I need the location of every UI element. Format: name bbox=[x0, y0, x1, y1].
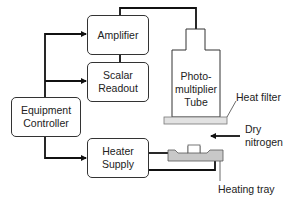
pmt-label-3: Tube bbox=[172, 96, 220, 109]
equipment-controller-block: Equipment Controller bbox=[11, 97, 81, 137]
heater-supply-label-2: Supply bbox=[102, 158, 134, 171]
controller-to-heater-line bbox=[45, 136, 86, 158]
equipment-controller-label-1: Equipment bbox=[21, 104, 71, 117]
heat-filter-label: Heat filter bbox=[236, 91, 281, 104]
dry-nitrogen-label: Dry nitrogen bbox=[245, 123, 283, 149]
heat-filter-pointer bbox=[227, 101, 236, 117]
pmt-label-1: Photo- bbox=[172, 70, 220, 83]
dry-nitrogen-label-1: Dry bbox=[245, 123, 283, 136]
heating-tray-label: Heating tray bbox=[218, 183, 275, 196]
controller-to-amplifier-line bbox=[45, 34, 86, 97]
heat-filter-shape bbox=[164, 117, 227, 124]
equipment-controller-label-2: Controller bbox=[23, 117, 69, 130]
amplifier-label: Amplifier bbox=[98, 29, 139, 42]
heater-supply-block: Heater Supply bbox=[87, 138, 149, 178]
scalar-readout-block: Scalar Readout bbox=[87, 62, 149, 102]
scalar-readout-label-1: Scalar bbox=[103, 69, 133, 82]
amplifier-block: Amplifier bbox=[87, 15, 149, 55]
dry-nitrogen-label-2: nitrogen bbox=[245, 136, 283, 149]
pmt-label-2: multiplier bbox=[172, 83, 220, 96]
photomultiplier-label: Photo- multiplier Tube bbox=[172, 70, 220, 109]
heater-supply-label-1: Heater bbox=[102, 145, 134, 158]
scalar-readout-label-2: Readout bbox=[98, 82, 138, 95]
heating-tray-shape bbox=[168, 145, 223, 161]
